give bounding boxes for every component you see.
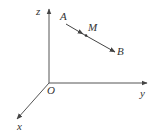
z-axis-label: z xyxy=(35,5,41,17)
point-b-label: B xyxy=(117,45,124,57)
segment-m-b xyxy=(83,34,115,52)
coordinate-diagram: z y x O A M B xyxy=(0,0,155,135)
y-axis-label: y xyxy=(139,87,145,99)
x-axis-label: x xyxy=(16,120,22,132)
point-m-dot xyxy=(85,34,88,37)
point-a-label: A xyxy=(59,10,67,22)
origin-label: O xyxy=(47,84,55,96)
point-m-label: M xyxy=(87,21,98,33)
segment-a-m xyxy=(66,24,83,34)
x-axis xyxy=(17,83,49,119)
